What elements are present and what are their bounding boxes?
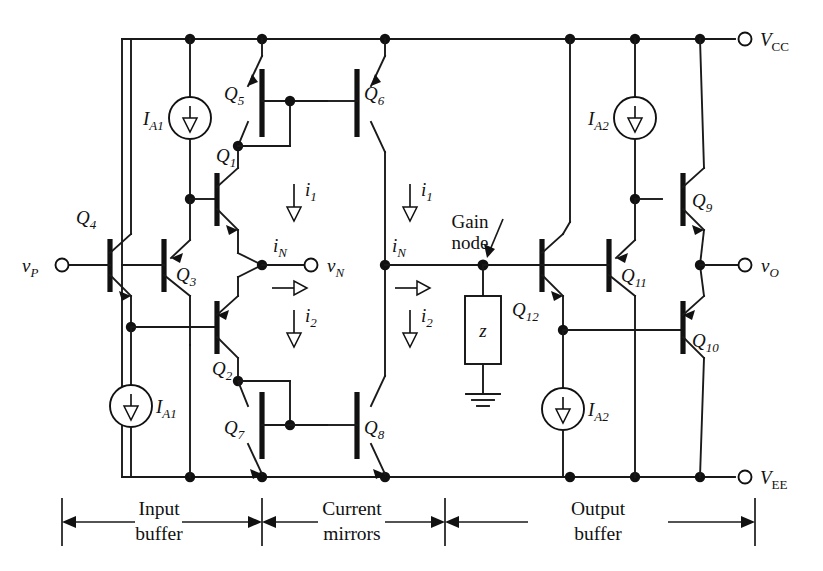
q1-label: Q1 <box>216 145 236 170</box>
i2-left-arrowhead <box>287 333 301 347</box>
vee-terminal-circle[interactable] <box>739 471 752 484</box>
transistor-q9: Q9 <box>683 39 713 265</box>
dim-arrow-output-left <box>445 516 459 528</box>
current-source-ia1-bottom: IA1 <box>110 327 177 477</box>
q6-label: Q6 <box>364 83 385 108</box>
q12-emitter-arrowhead <box>551 291 563 301</box>
q3-label: Q3 <box>176 264 197 289</box>
q9-collector-slant <box>683 168 704 187</box>
dim-arrow-mirror-left <box>262 516 276 528</box>
q11-label: Q11 <box>621 265 647 290</box>
in-right-arrowhead <box>417 281 430 295</box>
i2-right-label: i2 <box>421 305 433 330</box>
gain-node-pointer-arrowhead <box>484 244 495 258</box>
ia1-top-label: IA1 <box>142 108 164 133</box>
q7-label: Q7 <box>224 417 245 442</box>
q12-collector-bend <box>563 222 570 234</box>
transistor-q2: Q2 <box>212 265 262 383</box>
section-dimension-bar: Input buffer Current mirrors Output buff… <box>62 498 755 546</box>
current-arrow-i2-left: i2 <box>287 305 317 347</box>
q8-emitter-slant <box>371 444 385 474</box>
vn-node-group: vN iN <box>257 235 346 295</box>
dim-arrow-mirror-right <box>431 516 445 528</box>
section-label-input-line2: buffer <box>135 523 183 544</box>
dim-arrow-input-left <box>62 516 76 528</box>
current-source-ia2-bottom: IA2 <box>542 330 609 477</box>
ia2-bottom-label: IA2 <box>587 399 609 424</box>
vcc-rail-group: VCC <box>122 29 789 54</box>
vp-label: vP <box>22 255 38 280</box>
i2-left-label: i2 <box>305 305 317 330</box>
q3-emitter-arrowhead <box>171 253 183 263</box>
in-left-arrowhead <box>294 281 307 295</box>
i1-left-arrowhead <box>287 207 301 221</box>
q9-emitter-lead <box>700 230 704 265</box>
q4-emitter-arrowhead <box>119 291 131 301</box>
transistor-q8: Q8 <box>327 265 385 479</box>
ia1-bottom-label: IA1 <box>155 396 177 421</box>
vo-terminal-circle[interactable] <box>739 259 752 272</box>
q5-label: Q5 <box>224 83 245 108</box>
q11-emitter-arrowhead <box>616 253 628 263</box>
section-label-input-line1: Input <box>138 498 180 519</box>
gain-node-pointer-shaft <box>490 219 503 250</box>
q8-collector-slant <box>371 376 385 406</box>
current-source-ia1-top: IA1 <box>142 39 211 199</box>
transistor-q1: Q1 <box>216 145 262 265</box>
i1-right-label: i1 <box>421 179 433 204</box>
i1-left-label: i1 <box>305 179 317 204</box>
transistor-q5: Q5 <box>224 39 327 146</box>
vcc-label: VCC <box>760 29 789 54</box>
vn-label: vN <box>327 255 345 280</box>
section-label-output-line2: buffer <box>574 523 622 544</box>
q2-label: Q2 <box>212 358 233 383</box>
vee-label: VEE <box>760 467 788 492</box>
q10-collector-lead <box>700 358 704 477</box>
vo-terminal-group: vO <box>695 255 780 280</box>
in-left-label: iN <box>273 235 288 260</box>
z-label: z <box>478 320 487 341</box>
figure-canvas: VCC VEE <box>0 0 823 571</box>
transistor-q10: Q10 <box>683 265 719 477</box>
current-arrow-i1-right: i1 <box>403 179 433 221</box>
q1-emitter-arrowhead <box>226 225 238 235</box>
vee-rail-group: VEE <box>122 467 788 492</box>
impedance-z-group: z <box>465 265 501 406</box>
vp-terminal-circle[interactable] <box>56 259 69 272</box>
transistor-q11: Q11 <box>542 239 647 477</box>
q8-label: Q8 <box>364 417 385 442</box>
section-label-output-line1: Output <box>571 498 626 519</box>
node-dot-mirror-base-tie <box>285 96 295 106</box>
dim-arrow-output-right <box>741 516 755 528</box>
q9-label: Q9 <box>692 190 713 215</box>
vcc-terminal-circle[interactable] <box>739 33 752 46</box>
transistor-q6: Q6 <box>327 39 385 265</box>
q9-emitter-arrowhead <box>692 225 704 235</box>
gain-node-annotation-line2: node <box>452 232 489 253</box>
q7-collector-slant <box>238 381 248 406</box>
dim-arrow-input-right <box>248 516 262 528</box>
q12-collector-slant <box>542 234 563 253</box>
circuit-schematic: VCC VEE <box>0 0 823 571</box>
ia2-top-label: IA2 <box>587 108 609 133</box>
transistor-q7: Q7 <box>224 381 327 479</box>
node-dot <box>565 472 575 482</box>
q6-collector-slant <box>371 122 385 152</box>
transistor-q12: Q12 <box>483 39 570 330</box>
i2-right-arrowhead <box>403 333 417 347</box>
current-source-ia2-top: IA2 <box>587 39 656 199</box>
current-arrow-i1-left: i1 <box>287 179 317 221</box>
q9-collector-lead <box>700 39 704 168</box>
in-right-label: iN <box>392 235 407 260</box>
q4-label: Q4 <box>76 207 97 232</box>
q5-emitter-arrowhead <box>248 74 258 86</box>
section-label-mirror-line2: mirrors <box>323 523 380 544</box>
vp-terminal-group: vP <box>22 255 69 280</box>
vn-terminal-circle[interactable] <box>305 259 318 272</box>
q12-label: Q12 <box>512 299 539 324</box>
q1-collector-slant <box>217 168 238 187</box>
vo-label: vO <box>761 255 779 280</box>
i1-right-arrowhead <box>403 207 417 221</box>
gain-node-group: Gain node <box>452 211 503 271</box>
q2-collector-slant <box>217 337 238 358</box>
